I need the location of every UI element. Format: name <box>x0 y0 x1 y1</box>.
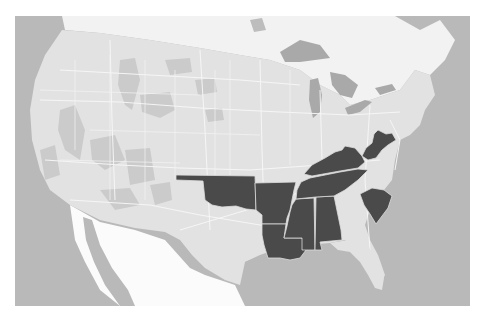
map-frame <box>15 16 470 306</box>
us-map[interactable] <box>15 16 470 306</box>
